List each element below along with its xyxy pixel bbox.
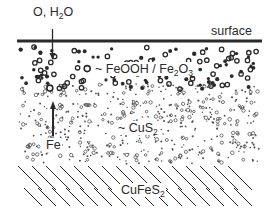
arrow-up-icon bbox=[50, 101, 56, 109]
surface-label: surface bbox=[211, 25, 252, 38]
sulfide-layer-label: ~ CuS2 bbox=[117, 122, 159, 135]
surface-label-text: surface bbox=[211, 24, 252, 38]
sulfide-label-prefix: ~ CuS bbox=[118, 121, 153, 135]
iron-label-text: Fe bbox=[45, 138, 62, 152]
substrate-label: CuFeS2 bbox=[120, 184, 166, 197]
substrate-label-prefix: CuFeS bbox=[121, 183, 160, 197]
reactants-label: O, H2O bbox=[33, 6, 73, 19]
oxide-label-prefix: ~ FeOOH / Fe bbox=[95, 62, 174, 76]
reactants-label-main: O, H bbox=[33, 5, 59, 19]
oxide-label-mid: O bbox=[179, 62, 189, 76]
reactants-label-tail: O bbox=[63, 5, 73, 19]
oxide-layer-label: ~ FeOOH / Fe2O3 bbox=[94, 63, 194, 76]
sulfide-label-sub: 2 bbox=[153, 127, 158, 137]
oxygen-water-arrow bbox=[50, 29, 56, 60]
oxide-label-sub2: 3 bbox=[188, 68, 193, 78]
iron-label: Fe bbox=[45, 139, 62, 152]
substrate-label-sub: 2 bbox=[160, 189, 165, 199]
